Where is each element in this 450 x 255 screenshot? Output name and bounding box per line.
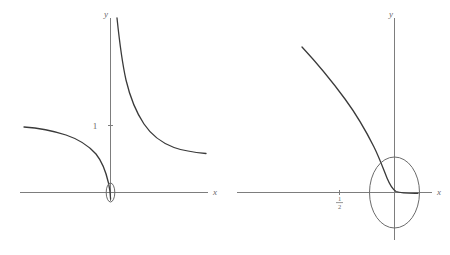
left-y-axis-label: y bbox=[103, 9, 108, 19]
right-y-axis-label: y bbox=[388, 9, 393, 19]
clipped-caption bbox=[0, 248, 450, 255]
right-x-axis-label: x bbox=[436, 187, 441, 197]
left-panel: x y 1 bbox=[20, 9, 217, 202]
left-y-tick-label-1: 1 bbox=[93, 121, 98, 131]
math-figure: x y 1 x y 1 2 bbox=[0, 0, 450, 255]
fraction-numerator: 1 bbox=[338, 195, 341, 202]
fraction-denominator: 2 bbox=[338, 203, 341, 210]
right-x-tick-label-half: 1 2 bbox=[336, 195, 343, 210]
right-panel: x y 1 2 bbox=[237, 9, 441, 240]
left-x-axis-label: x bbox=[212, 187, 217, 197]
left-curve-left-branch bbox=[24, 127, 111, 199]
left-curve-right-branch bbox=[117, 18, 206, 154]
right-curve bbox=[302, 47, 418, 193]
